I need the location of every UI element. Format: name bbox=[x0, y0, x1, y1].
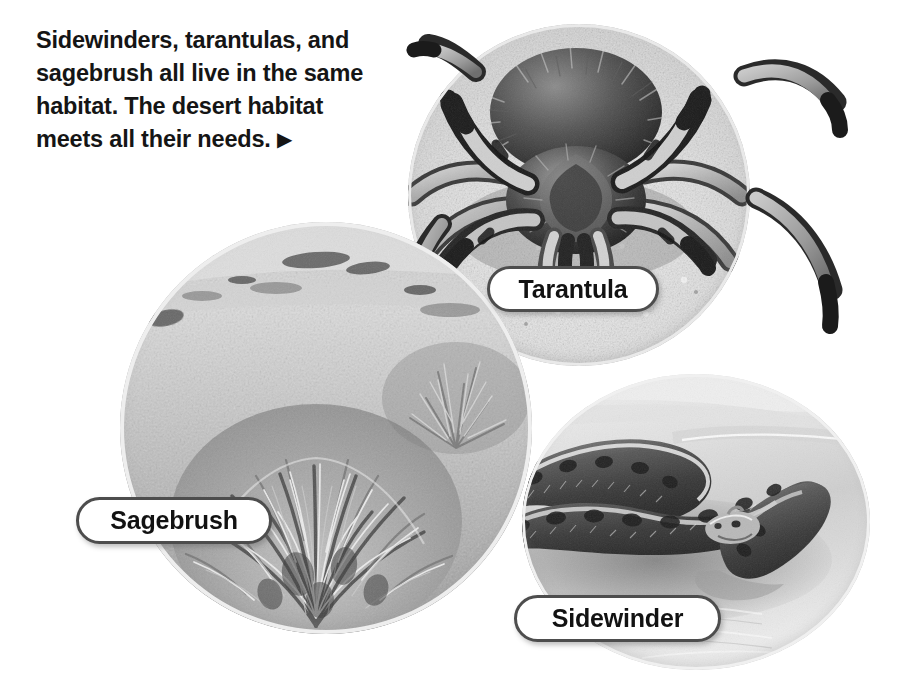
label-sidewinder: Sidewinder bbox=[514, 595, 721, 642]
sagebrush-photo-image bbox=[120, 222, 532, 634]
label-sagebrush-text: Sagebrush bbox=[110, 506, 237, 535]
label-sagebrush: Sagebrush bbox=[76, 497, 272, 544]
caption-text: Sidewinders, tarantulas, and sagebrush a… bbox=[36, 27, 363, 152]
label-tarantula-text: Tarantula bbox=[519, 275, 628, 304]
photo-circle-sagebrush bbox=[120, 222, 532, 634]
label-sidewinder-text: Sidewinder bbox=[552, 604, 683, 633]
caption-arrow-icon: ▶ bbox=[277, 128, 292, 150]
label-tarantula: Tarantula bbox=[487, 266, 659, 312]
figure-caption: Sidewinders, tarantulas, and sagebrush a… bbox=[36, 24, 366, 156]
desert-habitat-figure: Sidewinders, tarantulas, and sagebrush a… bbox=[0, 0, 904, 699]
